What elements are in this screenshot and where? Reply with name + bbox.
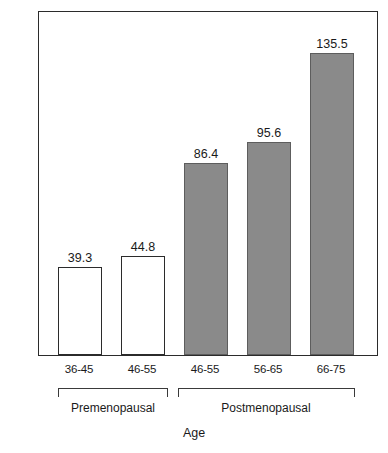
bar-postmenopausal-46-55[interactable] — [184, 163, 228, 355]
tick-label-2: 46-55 — [128, 361, 156, 377]
bar-column-5: 135.5 — [310, 12, 354, 355]
bar-column-1: 39.3 — [58, 12, 102, 355]
plot-frame: 39.3 44.8 86.4 95.6 135.5 — [38, 11, 378, 356]
tick-label-5: 66-75 — [317, 361, 345, 377]
bar-column-2: 44.8 — [121, 12, 165, 355]
bar-postmenopausal-56-65[interactable] — [247, 142, 291, 355]
bar-chart-figure: Storage Iron (Serum Ferritin) (ng/ml) 39… — [0, 0, 388, 453]
tick-label-1: 36-45 — [65, 361, 93, 377]
group-bracket-premenopausal — [58, 388, 168, 397]
bar-column-3: 86.4 — [184, 12, 228, 355]
tick-label-4: 56-65 — [254, 361, 282, 377]
bar-value-label-4: 95.6 — [257, 126, 281, 140]
group-label-premenopausal: Premenopausal — [71, 400, 155, 416]
bar-premenopausal-36-45[interactable] — [58, 267, 102, 355]
x-axis-tick-labels: 36-45 46-55 46-55 56-65 66-75 — [38, 361, 378, 377]
bar-value-label-3: 86.4 — [194, 147, 218, 161]
bar-value-label-1: 39.3 — [68, 251, 92, 265]
group-label-postmenopausal: Postmenopausal — [221, 400, 310, 416]
x-axis-title: Age — [0, 425, 388, 441]
plot-area: 39.3 44.8 86.4 95.6 135.5 — [39, 12, 377, 355]
bar-column-4: 95.6 — [247, 12, 291, 355]
group-bracket-postmenopausal — [178, 388, 355, 397]
tick-label-3: 46-55 — [191, 361, 219, 377]
bar-premenopausal-46-55[interactable] — [121, 256, 165, 355]
bar-postmenopausal-66-75[interactable] — [310, 53, 354, 355]
bar-value-label-2: 44.8 — [131, 240, 155, 254]
bar-value-label-5: 135.5 — [316, 37, 347, 51]
